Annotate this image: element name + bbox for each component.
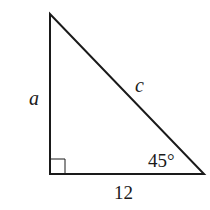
base-label: 12 [114,182,133,203]
angle-label: 45° [148,150,175,171]
hypotenuse-c-label: c [135,74,144,96]
right-angle-marker [50,159,65,174]
side-a-label: a [29,87,39,109]
triangle [50,14,204,174]
triangle-diagram: a c 12 45° [0,0,210,210]
